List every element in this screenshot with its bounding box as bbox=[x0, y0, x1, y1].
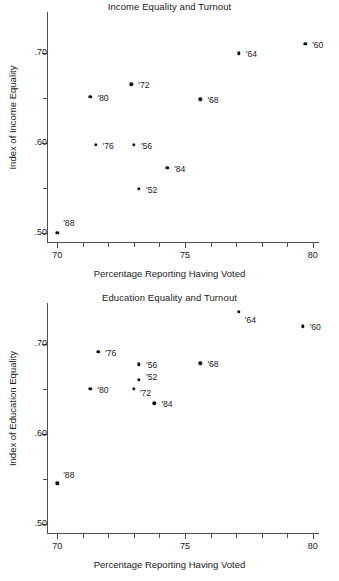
plot-area: '88'80'76'72'56'52'84'68'64'60 bbox=[47, 12, 318, 242]
x-axis-minor-tick bbox=[236, 534, 237, 538]
data-point-label: '72 bbox=[140, 388, 151, 398]
y-axis-minor-tick bbox=[43, 479, 47, 480]
y-axis-tick-label: .60 bbox=[34, 137, 47, 147]
x-axis-tick-label: 75 bbox=[180, 250, 190, 260]
data-point-label: '52 bbox=[146, 185, 157, 195]
data-point-label: '80 bbox=[97, 385, 108, 395]
data-point-label: '80 bbox=[97, 93, 108, 103]
x-axis-minor-tick bbox=[262, 534, 263, 538]
x-axis-minor-tick bbox=[134, 243, 135, 247]
x-axis-title: Percentage Reporting Having Voted bbox=[0, 268, 339, 279]
data-point bbox=[237, 52, 240, 55]
plot-area: '88'80'76'72'52'56'84'68'64'60 bbox=[47, 303, 318, 533]
y-axis-tick-label: .50 bbox=[34, 518, 47, 528]
data-point bbox=[237, 310, 240, 313]
data-point-label: '64 bbox=[246, 49, 257, 59]
data-point bbox=[130, 82, 133, 85]
x-axis-minor-tick bbox=[83, 534, 84, 538]
x-axis-minor-tick bbox=[287, 534, 288, 538]
x-axis-tick bbox=[313, 534, 314, 539]
data-point-label: '84 bbox=[174, 164, 185, 174]
data-point-label: '52 bbox=[146, 372, 157, 382]
y-axis-tick-label: .60 bbox=[34, 428, 47, 438]
y-axis-minor-tick bbox=[43, 188, 47, 189]
data-point bbox=[301, 325, 304, 328]
data-point bbox=[137, 378, 140, 381]
scatter-figure: Income Equality and Turnout '88'80'76'72… bbox=[0, 0, 339, 581]
y-axis-title: Index of Income Equality bbox=[7, 43, 18, 193]
data-point bbox=[89, 387, 92, 390]
x-axis-tick-label: 75 bbox=[180, 541, 190, 551]
y-axis-tick-label: .50 bbox=[34, 227, 47, 237]
data-point bbox=[304, 42, 307, 45]
data-point-label: '56 bbox=[141, 141, 152, 151]
data-point-label: '68 bbox=[207, 359, 218, 369]
data-point bbox=[137, 187, 140, 190]
data-point bbox=[199, 98, 202, 101]
data-point bbox=[199, 362, 202, 365]
x-axis-minor-tick bbox=[83, 243, 84, 247]
data-point bbox=[56, 231, 59, 234]
x-axis-minor-tick bbox=[108, 534, 109, 538]
x-axis-tick-label: 80 bbox=[308, 250, 318, 260]
data-point bbox=[137, 363, 140, 366]
data-point-label: '60 bbox=[310, 322, 321, 332]
x-axis-tick-label: 70 bbox=[52, 250, 62, 260]
x-axis-minor-tick bbox=[108, 243, 109, 247]
data-point bbox=[56, 482, 59, 485]
y-axis-minor-tick bbox=[43, 98, 47, 99]
data-point bbox=[132, 143, 135, 146]
data-point bbox=[96, 350, 99, 353]
data-point bbox=[165, 166, 168, 169]
data-point-label: '72 bbox=[138, 80, 149, 90]
data-point-label: '84 bbox=[161, 399, 172, 409]
x-axis-tick bbox=[313, 243, 314, 248]
x-axis-tick bbox=[57, 243, 58, 248]
chart-panel-income-equality: Income Equality and Turnout '88'80'76'72… bbox=[0, 0, 339, 290]
chart-title: Education Equality and Turnout bbox=[0, 292, 339, 303]
data-point-label: '68 bbox=[207, 95, 218, 105]
x-axis-tick-label: 80 bbox=[308, 541, 318, 551]
x-axis-title: Percentage Reporting Having Voted bbox=[0, 559, 339, 570]
y-axis-tick-label: .70 bbox=[34, 338, 47, 348]
data-point-label: '60 bbox=[312, 40, 323, 50]
data-point-label: '64 bbox=[245, 315, 256, 325]
chart-title: Income Equality and Turnout bbox=[0, 1, 339, 12]
x-axis-minor-tick bbox=[134, 534, 135, 538]
data-point-label: '76 bbox=[103, 141, 114, 151]
y-axis-title: Index of Education Equality bbox=[7, 334, 18, 484]
data-point-label: '88 bbox=[63, 218, 74, 228]
data-point-label: '88 bbox=[63, 470, 74, 480]
data-point bbox=[153, 401, 156, 404]
x-axis-minor-tick bbox=[211, 534, 212, 538]
x-axis-minor-tick bbox=[236, 243, 237, 247]
x-axis-minor-tick bbox=[287, 243, 288, 247]
x-axis-tick bbox=[185, 534, 186, 539]
data-point-label: '56 bbox=[146, 360, 157, 370]
x-axis-line bbox=[47, 242, 319, 243]
y-axis-minor-tick bbox=[43, 389, 47, 390]
x-axis-tick bbox=[57, 534, 58, 539]
data-point bbox=[94, 143, 97, 146]
x-axis-minor-tick bbox=[262, 243, 263, 247]
x-axis-tick bbox=[185, 243, 186, 248]
x-axis-minor-tick bbox=[211, 243, 212, 247]
y-axis-tick-label: .70 bbox=[34, 47, 47, 57]
data-point bbox=[89, 95, 92, 98]
x-axis-line bbox=[47, 533, 319, 534]
data-point bbox=[132, 387, 135, 390]
data-point-label: '76 bbox=[105, 348, 116, 358]
x-axis-tick-label: 70 bbox=[52, 541, 62, 551]
chart-panel-education-equality: Education Equality and Turnout '88'80'76… bbox=[0, 291, 339, 581]
x-axis-minor-tick bbox=[159, 534, 160, 538]
x-axis-minor-tick bbox=[159, 243, 160, 247]
